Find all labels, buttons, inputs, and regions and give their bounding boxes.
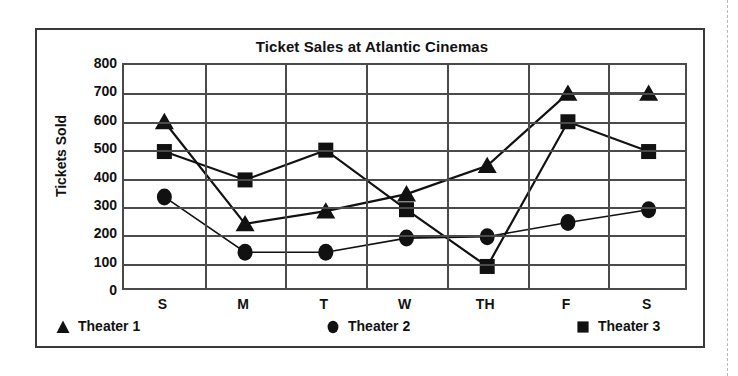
page-scan-dashed-rule — [727, 0, 728, 376]
data-point-marker — [399, 230, 414, 247]
gridline-vertical — [528, 65, 530, 288]
gridline-vertical — [285, 65, 287, 288]
data-point-marker — [238, 244, 253, 261]
y-tick-label: 100 — [71, 255, 117, 269]
legend-label: Theater 3 — [598, 318, 660, 334]
gridline-horizontal — [124, 179, 685, 181]
chart-figure-frame: Ticket Sales at Atlantic Cinemas Tickets… — [35, 28, 705, 348]
y-tick-label: 800 — [71, 56, 117, 70]
y-axis-tick-labels: 0100200300400500600700800 — [62, 63, 117, 290]
data-point-marker — [641, 201, 656, 218]
circle-marker-icon — [325, 319, 339, 333]
legend-label: Theater 1 — [78, 318, 140, 334]
data-point-marker — [318, 244, 333, 261]
chart-title: Ticket Sales at Atlantic Cinemas — [37, 38, 707, 55]
gridline-vertical — [205, 65, 207, 288]
gridline-horizontal — [124, 264, 685, 266]
gridline-horizontal — [124, 93, 685, 95]
gridline-horizontal — [124, 235, 685, 237]
y-tick-label: 0 — [71, 283, 117, 297]
triangle-marker-icon — [55, 319, 69, 333]
gridline-horizontal — [124, 207, 685, 209]
legend-entry: Theater 3 — [575, 318, 660, 334]
y-tick-label: 700 — [71, 84, 117, 98]
x-tick-label: F — [562, 296, 571, 312]
y-tick-label: 200 — [71, 226, 117, 240]
x-tick-label: S — [642, 296, 651, 312]
legend-label: Theater 2 — [348, 318, 410, 334]
gridline-vertical — [608, 65, 610, 288]
y-tick-label: 300 — [71, 198, 117, 212]
gridline-horizontal — [124, 122, 685, 124]
data-point-marker — [157, 188, 172, 205]
x-tick-label: W — [398, 296, 411, 312]
x-tick-label: T — [320, 296, 329, 312]
y-tick-label: 400 — [71, 170, 117, 184]
data-point-marker — [480, 259, 495, 274]
gridline-vertical — [366, 65, 368, 288]
plot-area — [122, 63, 687, 290]
data-point-marker — [560, 214, 575, 231]
x-tick-label: M — [237, 296, 249, 312]
gridline-horizontal — [124, 150, 685, 152]
square-marker-icon — [575, 319, 589, 333]
x-tick-label: TH — [476, 296, 495, 312]
data-point-marker — [399, 202, 414, 217]
data-point-marker — [397, 185, 416, 201]
chart-legend: Theater 1Theater 2Theater 3 — [55, 318, 689, 344]
y-tick-label: 500 — [71, 141, 117, 155]
x-axis-tick-labels: SMTWTHFS — [122, 296, 687, 316]
legend-entry: Theater 2 — [325, 318, 410, 334]
y-tick-label: 600 — [71, 113, 117, 127]
x-tick-label: S — [158, 296, 167, 312]
gridline-vertical — [447, 65, 449, 288]
legend-entry: Theater 1 — [55, 318, 140, 334]
